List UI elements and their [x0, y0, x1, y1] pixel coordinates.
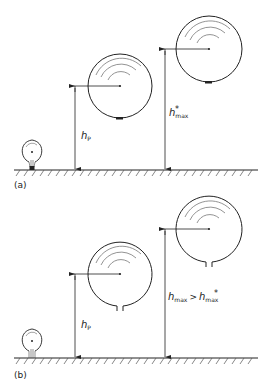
balloon-small-on-ground	[22, 140, 42, 170]
balloon-small-on-ground	[22, 329, 42, 358]
panel-b-label: (b)	[14, 370, 27, 380]
star-superscript: *	[175, 105, 179, 114]
balloon-ascent-diagram: hP hmax * (a)	[0, 0, 273, 391]
hmax-comparison-label: hmax>hmax	[168, 291, 219, 303]
star-superscript: *	[214, 289, 218, 298]
panel-b: hP hmax>hmax * (b)	[14, 196, 258, 380]
hp-label: hP	[81, 319, 91, 331]
balloon-mid	[88, 54, 152, 120]
ground-hatching	[16, 358, 252, 364]
panel-a: hP hmax * (a)	[14, 16, 258, 190]
panel-a-label: (a)	[14, 180, 27, 190]
ground-hatching	[16, 170, 252, 176]
hp-label: hP	[81, 130, 91, 142]
balloon-top	[176, 16, 242, 84]
balloon-mid-open	[88, 242, 152, 311]
balloon-top-open	[176, 196, 242, 267]
